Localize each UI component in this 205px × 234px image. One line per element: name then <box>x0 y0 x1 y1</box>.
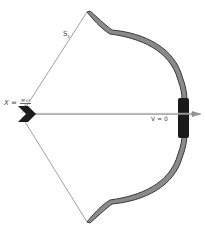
equals-sign: = <box>11 99 17 107</box>
displacement-fraction: M·v² k <box>20 99 31 108</box>
string-length-label: S1 <box>63 31 70 39</box>
velocity-label: V = 0 <box>151 116 168 122</box>
fraction-denominator: k <box>20 104 31 108</box>
bowstring-upper <box>22 12 87 113</box>
arrowhead <box>192 112 201 117</box>
spring-displacement-label: X = M·v² k <box>4 99 31 108</box>
bow-arrow-diagram: X = M·v² k S1 V = 0 <box>0 0 205 234</box>
x-symbol: X <box>4 99 9 107</box>
bow-lower-limb <box>87 134 187 223</box>
string-subscript: 1 <box>67 34 70 39</box>
bow-illustration <box>0 0 205 234</box>
bow-grip <box>178 98 189 138</box>
arrow-fletching <box>18 106 36 122</box>
bowstring-lower <box>22 117 87 222</box>
bow-upper-limb <box>87 11 187 100</box>
